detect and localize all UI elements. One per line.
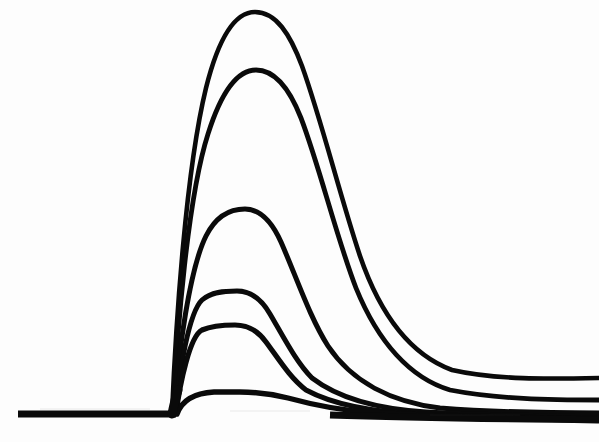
onset-ink-blot: [172, 390, 178, 414]
peak-curves-plot: [0, 0, 599, 442]
figure-canvas: [0, 0, 599, 442]
